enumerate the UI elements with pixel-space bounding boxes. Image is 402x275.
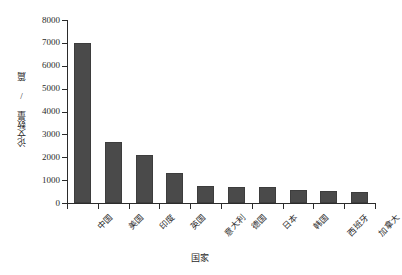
x-tick-mark	[283, 204, 284, 209]
y-tick-label: 8000	[14, 16, 60, 25]
y-tick-label: 1000	[14, 176, 60, 185]
bar	[259, 187, 276, 203]
y-tick-label: 7000	[14, 38, 60, 47]
plot-area	[67, 20, 375, 203]
y-tick-label: 4000	[14, 107, 60, 116]
x-category-label: 美国	[126, 212, 146, 232]
y-tick-label: 0	[14, 199, 60, 208]
x-category-label: 日本	[280, 212, 300, 232]
x-category-label: 英国	[188, 212, 208, 232]
bar	[74, 43, 91, 203]
bar	[105, 142, 122, 203]
x-category-label: 韩国	[311, 212, 331, 232]
x-tick-mark	[190, 204, 191, 209]
y-tick-label: 3000	[14, 130, 60, 139]
x-category-label: 印度	[157, 212, 177, 232]
x-axis-title: 国家	[0, 253, 399, 264]
y-tick-label: 5000	[14, 84, 60, 93]
bar	[290, 190, 307, 203]
x-tick-mark	[98, 204, 99, 209]
bar	[136, 155, 153, 203]
bar	[228, 187, 245, 203]
x-tick-mark	[375, 204, 376, 209]
x-tick-mark	[129, 204, 130, 209]
x-tick-mark	[313, 204, 314, 209]
x-category-label: 西班牙	[345, 212, 371, 238]
x-tick-mark	[67, 204, 68, 209]
x-category-label: 德国	[250, 212, 270, 232]
bar	[351, 192, 368, 203]
y-tick-label: 6000	[14, 61, 60, 70]
x-tick-mark	[252, 204, 253, 209]
bar	[197, 186, 214, 203]
x-category-label: 意大利	[222, 212, 248, 238]
x-tick-mark	[159, 204, 160, 209]
bar	[320, 191, 337, 203]
x-category-label: 中国	[96, 212, 116, 232]
x-tick-mark	[221, 204, 222, 209]
y-tick-label: 2000	[14, 153, 60, 162]
x-tick-mark	[344, 204, 345, 209]
x-category-label: 加拿大	[376, 212, 402, 238]
bar	[166, 173, 183, 203]
